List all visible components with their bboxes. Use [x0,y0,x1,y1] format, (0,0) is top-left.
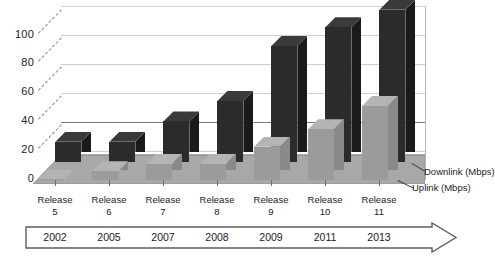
bar-uplink-6 [362,106,388,180]
gridline-80 [61,64,425,65]
timeline-year-5: 2011 [302,231,348,243]
timeline-year-1: 2005 [86,231,132,243]
x-axis-label-line-0: Release [136,194,190,206]
x-axis-label-line-0: Release [244,194,298,206]
bar-front-face [308,129,334,180]
bar-side-face [405,0,415,152]
y-axis-tick-60: 60 [0,85,34,97]
x-axis-tick-5 [325,180,326,186]
x-axis-label-line-0: Release [28,194,82,206]
x-axis-label-line-1: 11 [352,206,406,218]
x-axis-label-line-1: 8 [190,206,244,218]
bar-front-face [109,142,135,162]
legend-label-uplink: Uplink (Mbps) [412,182,471,193]
x-axis-label-line-0: Release [82,194,136,206]
x-axis-label-line-1: 5 [28,206,82,218]
x-axis-label-line-0: Release [298,194,352,206]
x-axis-label-line-1: 9 [244,206,298,218]
x-axis-label-line-0: Release [190,194,244,206]
x-axis-tick-2 [163,180,164,186]
bar-side-face [351,17,361,152]
timeline-year-4: 2009 [248,231,294,243]
bar-side-face [388,96,398,170]
gridline-120 [61,6,425,7]
bar-uplink-2 [146,164,172,180]
x-axis-tick-4 [271,180,272,186]
y-axis-tick-0: 0 [0,172,34,184]
y-axis-tick-40: 40 [0,114,34,126]
bar-uplink-4 [254,147,280,180]
timeline-year-6: 2013 [356,231,402,243]
bar-side-face [243,91,253,152]
y-axis-tick-20: 20 [0,143,34,155]
bar-uplink-1 [92,171,118,180]
bar-downlink-1 [109,142,135,162]
y-tick-leader-80 [38,37,62,61]
bar-uplink-0 [38,179,64,180]
y-axis-tick-100: 100 [0,28,34,40]
x-axis-label-2: Release7 [136,194,190,217]
x-axis-label-1: Release6 [82,194,136,217]
bar-side-face [297,36,307,152]
x-axis-label-line-1: 10 [298,206,352,218]
bar-front-face [55,142,81,162]
x-axis-label-6: Release11 [352,194,406,217]
bar-front-face [92,171,118,180]
bar-front-face [200,164,226,180]
timeline-year-0: 2002 [32,231,78,243]
x-axis-label-line-1: 6 [82,206,136,218]
bar-uplink-3 [200,164,226,180]
x-axis-label-3: Release8 [190,194,244,217]
y-axis-tick-80: 80 [0,56,34,68]
x-axis-tick-3 [217,180,218,186]
bar-front-face [146,164,172,180]
bar-front-face [254,147,280,180]
bar-front-face [217,101,243,162]
x-axis-tick-1 [109,180,110,186]
y-tick-leader-60 [38,66,62,90]
bar-front-face [362,106,388,180]
x-axis-label-0: Release5 [28,194,82,217]
x-axis-tick-0 [55,180,56,186]
bar-front-face [38,179,64,180]
timeline-year-2: 2007 [140,231,186,243]
y-tick-leader-100 [38,9,62,33]
legend-label-downlink: Downlink (Mbps) [424,166,495,177]
bar-downlink-3 [217,101,243,162]
gridline-100 [61,35,425,36]
x-axis-tick-6 [379,180,380,186]
bar-uplink-5 [308,129,334,180]
x-axis-label-line-0: Release [352,194,406,206]
x-axis-label-4: Release9 [244,194,298,217]
bar-downlink-0 [55,142,81,162]
x-axis-label-5: Release10 [298,194,352,217]
y-tick-leader-40 [38,95,62,119]
timeline-year-3: 2008 [194,231,240,243]
x-axis-label-line-1: 7 [136,206,190,218]
